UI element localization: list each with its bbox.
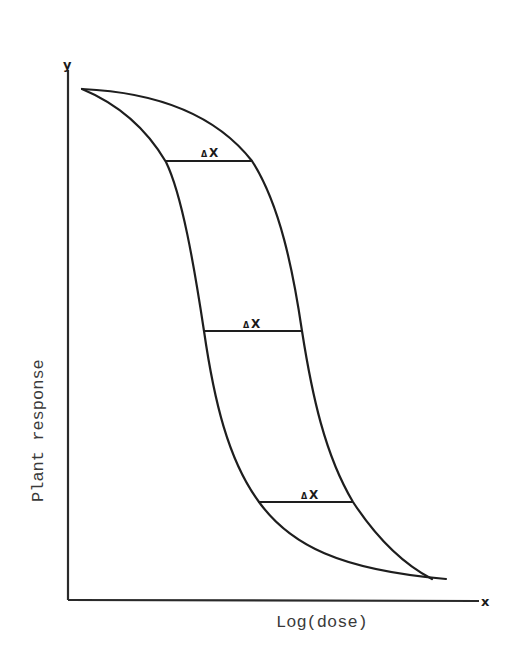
left-curve <box>82 89 446 579</box>
delta-icon: Δ <box>301 492 308 501</box>
interval-label-top: Δ X <box>201 146 219 160</box>
x-axis-letter: x <box>481 594 490 609</box>
dose-response-diagram: y x Log(dose) Plant response Δ X Δ X Δ X <box>0 0 512 661</box>
y-axis-letter: y <box>63 57 72 72</box>
interval-label-middle: Δ X <box>243 317 261 331</box>
x-axis-label: Log(dose) <box>276 613 368 632</box>
interval-label-bottom: Δ X <box>301 488 319 502</box>
right-curve <box>82 89 432 579</box>
interval-var: X <box>309 488 319 502</box>
interval-var: X <box>209 146 219 160</box>
x-axis <box>68 600 479 601</box>
delta-icon: Δ <box>201 150 208 159</box>
y-axis-label: Plant response <box>29 359 48 502</box>
interval-var: X <box>251 317 261 331</box>
delta-icon: Δ <box>243 321 250 330</box>
